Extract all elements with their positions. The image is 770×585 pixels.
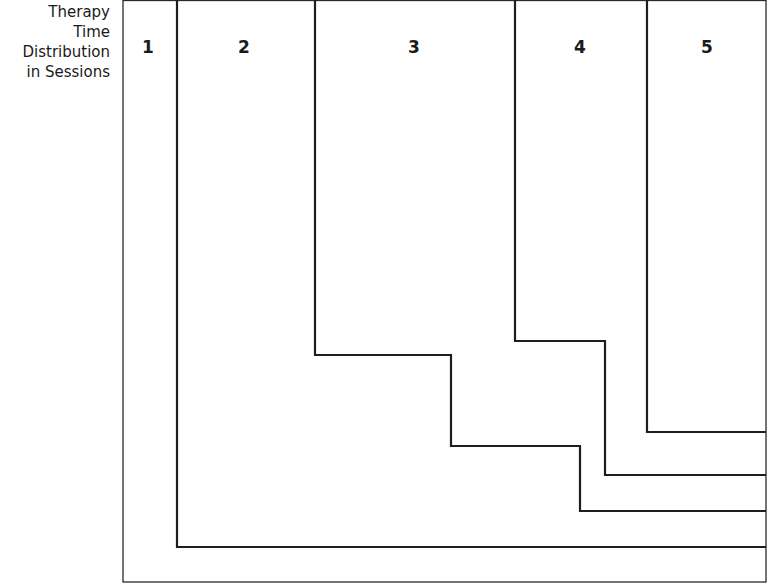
section-4-label: 4 bbox=[574, 37, 586, 57]
section-1-label: 1 bbox=[142, 37, 154, 57]
section-5-label: 5 bbox=[701, 37, 713, 57]
outer-box bbox=[123, 1, 766, 583]
section-3-label: 3 bbox=[408, 37, 420, 57]
section-2-label: 2 bbox=[238, 37, 250, 57]
section-5-boundary bbox=[647, 0, 766, 432]
section-2-boundary bbox=[177, 0, 766, 547]
section-3-boundary bbox=[315, 0, 766, 511]
section-4-boundary bbox=[515, 0, 766, 475]
therapy-time-diagram bbox=[0, 0, 770, 585]
